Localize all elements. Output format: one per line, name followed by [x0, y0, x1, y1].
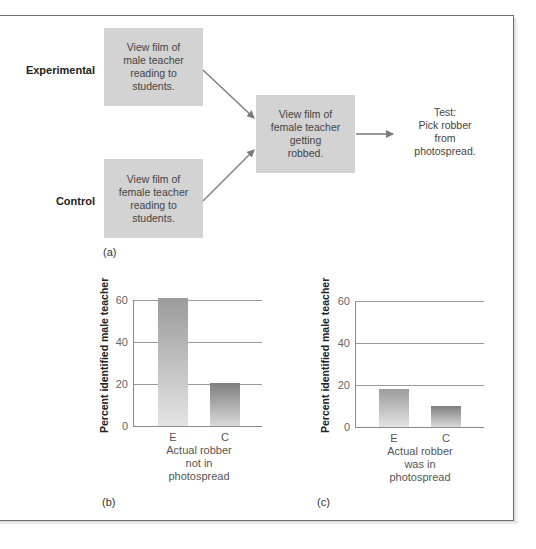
gridline — [355, 385, 484, 386]
test-description: Test: Pick robber from photospread. — [395, 106, 495, 158]
bar-e — [158, 298, 188, 426]
x-title-line: not in — [144, 457, 254, 470]
gridline — [133, 384, 262, 385]
y-tick-label: 0 — [326, 421, 350, 433]
y-tick-label: 60 — [104, 294, 128, 306]
bar-c — [210, 383, 240, 426]
x-axis-title: Actual robber not in photospread — [144, 444, 254, 483]
x-title-line: photospread — [365, 471, 475, 484]
y-tick-label: 60 — [326, 295, 350, 307]
gridline — [133, 342, 262, 343]
y-axis — [355, 301, 356, 428]
y-axis — [133, 300, 134, 427]
y-axis-label: Percent identified male teacher — [319, 293, 331, 433]
gridline — [355, 343, 484, 344]
panel-label-c: (c) — [317, 496, 330, 508]
y-tick-label: 40 — [326, 337, 350, 349]
panel-label-b: (b) — [102, 496, 115, 508]
x-category-label: E — [384, 432, 404, 444]
arrow-icon — [203, 70, 254, 118]
frame-shadow — [0, 521, 518, 525]
y-axis-label: Percent identified male teacher — [98, 293, 110, 433]
x-category-label: C — [215, 431, 235, 443]
x-category-label: E — [163, 431, 183, 443]
y-tick-label: 40 — [104, 336, 128, 348]
gridline — [355, 301, 484, 302]
panel-label-a: (a) — [103, 246, 116, 258]
x-axis — [133, 426, 262, 427]
test-text-line: Pick robber — [395, 119, 495, 132]
test-text-line: from — [395, 132, 495, 145]
x-title-line: Actual robber — [144, 444, 254, 457]
bar-e — [379, 389, 409, 427]
x-axis — [355, 427, 484, 428]
gridline — [133, 300, 262, 301]
y-tick-label: 20 — [326, 379, 350, 391]
test-text-line: Test: — [395, 106, 495, 119]
test-text-line: photospread. — [395, 145, 495, 158]
y-tick-label: 0 — [104, 420, 128, 432]
x-category-label: C — [436, 432, 456, 444]
x-axis-title: Actual robber was in photospread — [365, 445, 475, 484]
x-title-line: was in — [365, 458, 475, 471]
x-title-line: photospread — [144, 470, 254, 483]
bar-c — [431, 406, 461, 427]
x-title-line: Actual robber — [365, 445, 475, 458]
y-tick-label: 20 — [104, 378, 128, 390]
arrow-icon — [203, 150, 254, 201]
